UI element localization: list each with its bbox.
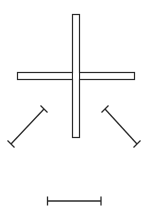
cross-diagram bbox=[0, 0, 145, 217]
cross-intersection bbox=[73, 73, 79, 79]
diagram-canvas bbox=[0, 0, 145, 217]
left-diagonal-segment bbox=[8, 106, 48, 148]
right-diagonal-segment bbox=[102, 106, 141, 148]
bottom-horizontal-segment bbox=[48, 197, 102, 206]
